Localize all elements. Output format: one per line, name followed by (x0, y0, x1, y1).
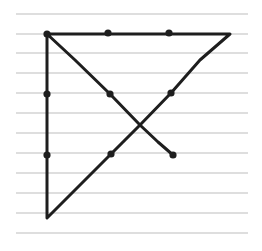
dot (167, 89, 174, 96)
dot (43, 30, 50, 37)
solution-stroke (47, 34, 230, 218)
dot (106, 90, 113, 97)
dot (43, 151, 50, 158)
dot (169, 151, 176, 158)
dot (104, 29, 111, 36)
nine-dots-diagram (0, 0, 262, 251)
dot (107, 150, 114, 157)
dot (165, 29, 172, 36)
dot (43, 90, 50, 97)
